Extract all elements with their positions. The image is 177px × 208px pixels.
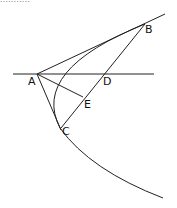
- geometry-diagram: A B C D E: [0, 0, 177, 208]
- label-B: B: [145, 23, 153, 36]
- label-A: A: [28, 75, 36, 88]
- line-AC: [37, 74, 61, 130]
- label-D: D: [103, 75, 111, 88]
- parabola-curve: [54, 24, 163, 198]
- line-AE: [37, 74, 83, 97]
- label-C: C: [62, 125, 70, 138]
- label-E: E: [84, 98, 91, 111]
